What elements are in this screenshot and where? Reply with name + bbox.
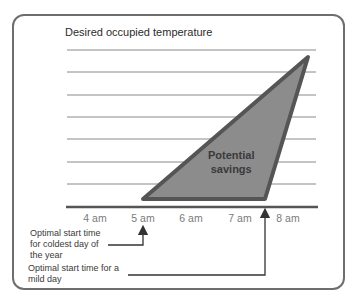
mild-day-annotation: Optimal start time for a mild day [28,263,119,285]
potential-savings-region [143,57,308,199]
annotation-line: mild day [28,274,119,285]
coldest-day-arrow [108,230,143,245]
savings-label-line1: Potential [208,148,254,162]
time-tick-4am: 4 am [83,212,106,224]
annotation-line: for coldest day of [30,239,101,250]
time-tick-5am: 5 am [131,212,154,224]
savings-label-line2: savings [208,162,254,176]
annotation-line: Optimal start time for a [28,263,119,274]
time-tick-8am: 8 am [276,212,299,224]
coldest-day-annotation: Optimal start time for coldest day of th… [30,228,101,261]
potential-savings-label: Potential savings [208,148,254,176]
annotation-line: Optimal start time [30,228,101,239]
time-tick-7am: 7 am [228,212,251,224]
time-tick-6am: 6 am [179,212,202,224]
annotation-line: the year [30,250,101,261]
